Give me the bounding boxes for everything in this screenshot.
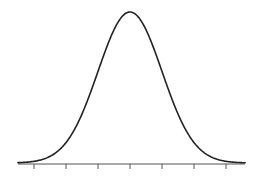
x-axis-ticks — [34, 164, 226, 169]
bell-curve-chart — [0, 0, 257, 178]
normal-curve — [18, 12, 245, 163]
